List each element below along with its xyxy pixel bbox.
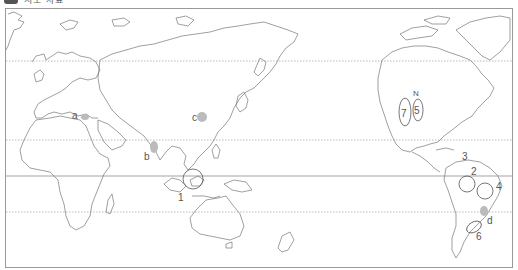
arctic-archipelago-1 (400, 26, 438, 40)
java-timor (192, 196, 220, 198)
british-isles (34, 70, 44, 82)
label-6: 6 (476, 231, 482, 242)
madagascar (106, 194, 114, 214)
point-c-marker (197, 112, 207, 122)
latitude-lines (6, 61, 512, 212)
central-america (412, 152, 440, 172)
shaded-points (81, 112, 488, 216)
africa (20, 116, 110, 230)
label-north: N (413, 89, 419, 98)
tasmania (226, 242, 232, 248)
point-b-marker (150, 141, 158, 153)
caribbean-islands (436, 148, 454, 150)
map-labels: a b c d 1 2 3 4 5 6 7 N (72, 89, 502, 242)
borneo (190, 176, 204, 186)
svalbard (60, 20, 78, 30)
region-2-circle (459, 176, 475, 192)
label-b: b (144, 151, 150, 162)
point-a-marker (81, 114, 89, 120)
franz-josef (112, 18, 130, 26)
label-2: 2 (471, 166, 477, 177)
europe-coast (32, 52, 100, 118)
taiwan-philippines (212, 144, 220, 158)
label-3: 3 (462, 151, 468, 162)
label-1: 1 (178, 192, 184, 203)
greenland-west (6, 12, 24, 50)
asia (98, 22, 298, 170)
new-zealand (278, 232, 294, 252)
label-4: 4 (496, 181, 502, 192)
landmasses (6, 12, 510, 258)
novaya-zemlya (176, 16, 194, 26)
label-d: d (487, 215, 493, 226)
new-guinea (224, 180, 252, 192)
arctic-archipelago-2 (424, 16, 450, 24)
world-map: a b c d 1 2 3 4 5 6 7 N (0, 0, 518, 270)
label-a: a (72, 110, 78, 121)
greenland-east (456, 16, 510, 60)
label-7: 7 (401, 108, 407, 119)
north-america (378, 46, 494, 152)
label-5: 5 (414, 105, 420, 116)
australia (190, 196, 244, 240)
region-4-circle (477, 183, 493, 199)
label-c: c (192, 112, 197, 123)
arabian-peninsula (98, 120, 126, 150)
